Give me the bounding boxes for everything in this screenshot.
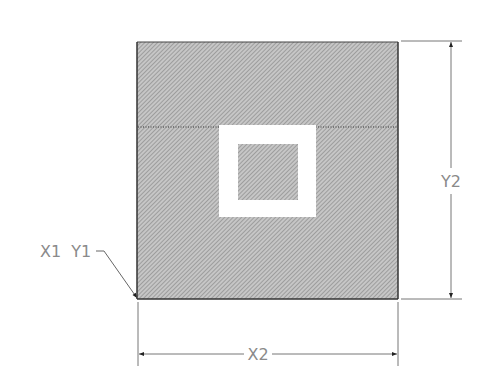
x2-label: X2: [247, 345, 268, 364]
drawing-canvas: Y2 X2 X1 Y1: [0, 0, 494, 391]
inner-hatched-square: [238, 144, 298, 200]
y2-label: Y2: [440, 172, 461, 191]
origin-leader-line: [96, 251, 137, 298]
origin-label: X1 Y1: [40, 242, 91, 261]
